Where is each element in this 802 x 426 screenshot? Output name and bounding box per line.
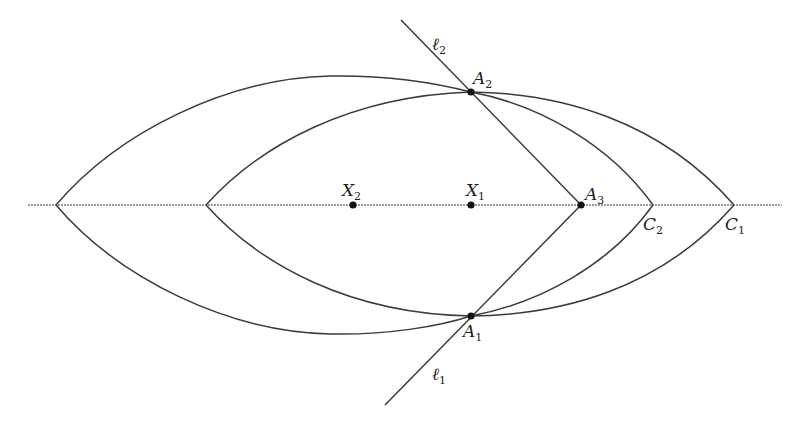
label-x2: X2 [340,180,361,203]
label-c1: C1 [725,214,745,237]
point-a2 [467,88,474,95]
arc-upper-to-c2 [471,92,653,205]
arc-lower-to-c2 [471,205,653,316]
label-a3: A3 [583,184,604,207]
inner-arc-lower-left [206,205,471,316]
outer-arc-lower-left [56,205,471,334]
label-l1: ℓ1 [432,364,446,387]
label-c2: C2 [643,214,663,237]
point-x1 [467,201,474,208]
label-l2: ℓ2 [432,34,446,57]
point-a3 [577,201,584,208]
line-l2 [401,20,581,205]
arc-upper-to-c1 [471,92,734,205]
label-a2: A2 [471,68,492,91]
outer-arc-upper-left [56,76,471,205]
arc-lower-to-c1 [471,205,734,316]
point-a1 [467,312,474,319]
inner-arc-upper-left [206,92,471,205]
label-a1: A1 [461,321,482,344]
label-x1: X1 [464,180,485,203]
geometry-diagram: ℓ2 A2 X2 X1 A3 C2 C1 A1 ℓ1 [0,0,802,426]
line-l1 [385,205,581,405]
